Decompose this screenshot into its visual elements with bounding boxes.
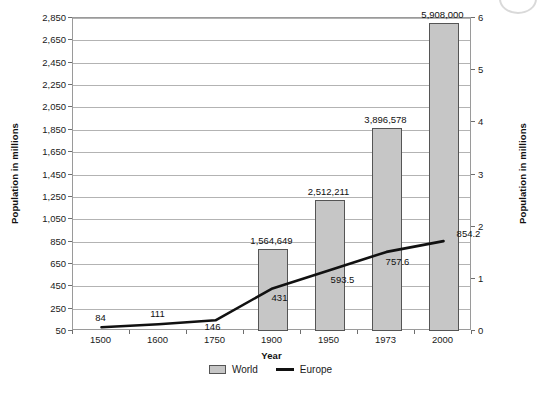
right-axis-tick: 0 <box>478 325 504 336</box>
left-axis-tick: 2,050 <box>6 101 66 112</box>
right-axis-tick: 6 <box>478 12 504 23</box>
x-axis-tick: 1600 <box>128 334 188 345</box>
left-axis-tick: 2,650 <box>6 34 66 45</box>
right-axis-tick: 3 <box>478 168 504 179</box>
right-axis-tick: 4 <box>478 116 504 127</box>
line-swatch-icon <box>276 368 294 371</box>
x-axis-tick: 1750 <box>185 334 245 345</box>
line-series-europe <box>73 18 472 331</box>
legend-item-world: World <box>209 364 258 375</box>
left-axis-tick: 1,050 <box>6 213 66 224</box>
line-value-label: 593.5 <box>331 274 355 285</box>
right-axis-tick: 2 <box>478 220 504 231</box>
legend-label-europe: Europe <box>300 364 332 375</box>
legend-item-europe: Europe <box>276 364 332 375</box>
line-value-label: 111 <box>150 308 164 319</box>
x-axis-tick: 1500 <box>71 334 131 345</box>
plot-area <box>72 17 471 330</box>
left-axis-tick: 1,650 <box>6 146 66 157</box>
left-axis-tick: 2,250 <box>6 79 66 90</box>
x-axis-title: Year <box>72 350 471 361</box>
bar-value-label: 3,896,578 <box>364 114 406 125</box>
corner-arc-artifact <box>499 0 537 14</box>
right-axis-title: Population in millions <box>517 104 528 244</box>
x-axis-tick: 1973 <box>356 334 416 345</box>
left-axis-tick: 1,250 <box>6 190 66 201</box>
left-axis-tick: 1,450 <box>6 168 66 179</box>
right-axis-tick: 1 <box>478 272 504 283</box>
bar-value-label: 2,512,211 <box>308 186 350 197</box>
left-axis-tick: 2,450 <box>6 56 66 67</box>
population-chart: Population in millions Population in mil… <box>0 0 541 394</box>
bar-value-label: 5,908,000 <box>421 9 463 20</box>
left-axis-tick: 50 <box>6 325 66 336</box>
line-value-label: 84 <box>95 312 106 323</box>
legend-label-world: World <box>232 364 258 375</box>
chart-legend: World Europe <box>0 364 541 375</box>
left-axis-tick: 2,850 <box>6 12 66 23</box>
right-axis-tick: 5 <box>478 64 504 75</box>
left-axis-tick: 450 <box>6 280 66 291</box>
bar-value-label: 1,564,649 <box>250 235 292 246</box>
x-axis-tick: 1900 <box>242 334 302 345</box>
left-axis-tick: 1,850 <box>6 123 66 134</box>
line-value-label: 757.6 <box>386 256 410 267</box>
line-value-label: 431 <box>272 292 288 303</box>
left-axis-tick: 850 <box>6 235 66 246</box>
x-axis-tick: 2000 <box>413 334 473 345</box>
bar-swatch-icon <box>209 365 226 374</box>
left-axis-tick: 250 <box>6 302 66 313</box>
line-value-label: 854.2 <box>457 228 481 239</box>
x-axis-tick: 1950 <box>299 334 359 345</box>
line-value-label: 146 <box>205 321 221 332</box>
left-axis-tick: 650 <box>6 257 66 268</box>
